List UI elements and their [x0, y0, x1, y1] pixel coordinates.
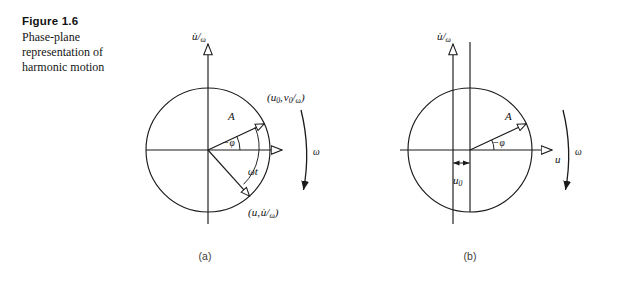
- rotation-rate-label-a: ω: [313, 147, 320, 157]
- rotation-direction-arrow-b: [563, 110, 569, 190]
- figure-drawing: u̇/ω A −φ ωt (u0, v0/ω) (u, u̇/ω) ω (a): [0, 0, 627, 282]
- amplitude-label-a: A: [227, 110, 235, 122]
- offset-label-b: u0: [453, 174, 463, 188]
- rotation-rate-label-b: ω: [575, 147, 582, 157]
- figure-container: Figure 1.6 Phase-plane representation of…: [0, 0, 627, 282]
- horizontal-axis-label-b: u: [555, 153, 561, 165]
- panel-a: u̇/ω A −φ ωt (u0, v0/ω) (u, u̇/ω) ω (a): [146, 30, 320, 262]
- panel-sublabel-b: (b): [464, 250, 477, 262]
- current-state-vector-a: [208, 150, 250, 196]
- vertical-axis-label-b: u̇/ω: [437, 30, 452, 44]
- initial-point-label-a: (u0, v0/ω): [267, 91, 305, 105]
- phase-angle-label-b: −φ: [492, 136, 505, 148]
- vertical-axis-label-a: u̇/ω: [192, 30, 207, 44]
- panel-sublabel-a: (a): [199, 250, 212, 262]
- current-point-label-a: (u, u̇/ω): [248, 206, 279, 220]
- panel-b: u̇/ω u A −φ u0 ω (b): [400, 30, 582, 262]
- rotation-direction-arrow-a: [301, 110, 307, 190]
- phase-angle-label-a: −φ: [222, 136, 235, 148]
- phase-angle-arc-a: [237, 137, 240, 151]
- rotation-angle-label-a: ωt: [248, 165, 259, 177]
- amplitude-label-b: A: [504, 110, 512, 122]
